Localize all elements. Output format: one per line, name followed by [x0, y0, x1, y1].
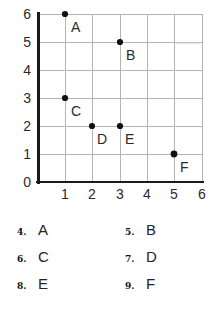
answer-row: 6. C 7. D — [0, 249, 216, 276]
y-tick-1: 1 — [23, 146, 31, 162]
answer-letter: E — [38, 276, 48, 291]
y-tick-4: 4 — [23, 62, 31, 78]
data-point-d — [89, 123, 95, 129]
y-tick-3: 3 — [23, 90, 31, 106]
y-tick-2: 2 — [23, 118, 31, 134]
answer-item-5[interactable]: 5. B — [125, 222, 156, 237]
y-tick-0: 0 — [23, 174, 31, 190]
answer-number: 8. — [17, 281, 31, 291]
x-tick-5: 5 — [170, 186, 178, 202]
data-point-b — [117, 39, 123, 45]
x-tick-2: 2 — [88, 186, 96, 202]
answer-letter: F — [146, 276, 155, 291]
point-label-d: D — [97, 131, 107, 147]
point-label-b: B — [126, 47, 135, 63]
y-tick-6: 6 — [23, 6, 31, 22]
answer-item-6[interactable]: 6. C — [17, 249, 49, 264]
answer-letter: C — [38, 249, 49, 264]
answer-letter: B — [146, 222, 156, 237]
point-label-e: E — [125, 131, 134, 147]
x-tick-1: 1 — [61, 186, 69, 202]
x-tick-6: 6 — [198, 186, 206, 202]
answer-row: 8. E 9. F — [0, 276, 216, 303]
answer-number: 5. — [125, 227, 139, 237]
answer-item-7[interactable]: 7. D — [125, 249, 157, 264]
answer-row: 4. A 5. B — [0, 222, 216, 249]
answer-letter: D — [146, 249, 157, 264]
y-tick-5: 5 — [23, 34, 31, 50]
answer-number: 7. — [125, 254, 139, 264]
x-axis-labels: 1 2 3 4 5 6 — [61, 186, 206, 202]
data-point-e — [117, 123, 123, 129]
x-tick-4: 4 — [143, 186, 151, 202]
data-point-a — [62, 11, 68, 17]
point-label-f: F — [180, 159, 189, 175]
data-point-f — [171, 151, 178, 158]
answer-item-8[interactable]: 8. E — [17, 276, 48, 291]
scatter-plot: 6 5 4 3 2 1 0 1 2 3 4 5 6 A B C D — [0, 0, 216, 205]
point-label-a: A — [71, 19, 81, 35]
answer-number: 4. — [17, 227, 31, 237]
answer-item-4[interactable]: 4. A — [17, 222, 48, 237]
answer-item-9[interactable]: 9. F — [125, 276, 155, 291]
answer-list: 4. A 5. B 6. C 7. D 8. E 9. F — [0, 222, 216, 312]
point-label-c: C — [71, 103, 81, 119]
answer-number: 6. — [17, 254, 31, 264]
x-tick-3: 3 — [116, 186, 124, 202]
answer-number: 9. — [125, 281, 139, 291]
data-point-c — [62, 95, 68, 101]
answer-letter: A — [38, 222, 48, 237]
y-axis-labels: 6 5 4 3 2 1 0 — [23, 6, 31, 190]
coordinate-grid-figure: 6 5 4 3 2 1 0 1 2 3 4 5 6 A B C D — [0, 0, 216, 205]
